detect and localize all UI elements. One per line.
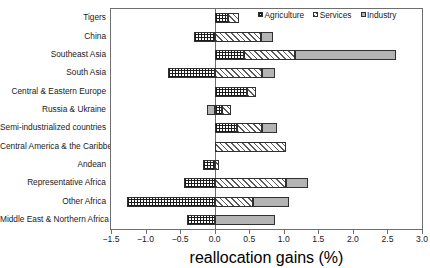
bar-segment-services: [247, 87, 256, 97]
y-axis-label: Central America & the Caribbean: [0, 141, 106, 151]
bar-segment-services: [215, 32, 261, 42]
y-axis-label: Representative Africa: [0, 177, 106, 187]
bar-segment-agriculture: [215, 105, 223, 115]
x-tick-label: 0.0: [209, 234, 221, 244]
chart-bar-row: [111, 68, 422, 78]
x-tick-label: 2.0: [347, 234, 359, 244]
bar-segment-industry: [215, 215, 276, 225]
bar-segment-agriculture: [215, 13, 228, 23]
bar-segment-agriculture: [215, 123, 238, 133]
bar-segment-services: [237, 123, 261, 133]
y-axis-label: Russia & Ukraine: [0, 104, 106, 114]
legend-item-agriculture: Agriculture: [258, 10, 304, 20]
legend-item-services: Services: [313, 10, 351, 20]
bar-segment-agriculture: [187, 215, 215, 225]
bar-segment-services: [215, 160, 219, 170]
bar-segment-industry: [262, 68, 275, 78]
legend-label: Agriculture: [265, 10, 305, 20]
chart-bar-row: [111, 215, 422, 225]
x-tick-label: 1.5: [312, 234, 324, 244]
bar-segment-services: [215, 142, 286, 152]
chart-bar-row: [111, 197, 422, 207]
bar-segment-agriculture: [168, 68, 215, 78]
stacked-bar-series-group: [111, 9, 422, 229]
bar-segment-services: [215, 68, 262, 78]
bar-segment-agriculture: [215, 87, 247, 97]
bar-segment-agriculture: [215, 50, 245, 60]
bar-segment-industry: [207, 105, 215, 115]
bar-segment-industry: [262, 123, 277, 133]
chart-figure: TigersChinaSoutheast AsiaSouth AsiaCentr…: [0, 0, 430, 268]
y-axis-label: Andean: [0, 159, 106, 169]
bar-segment-agriculture: [194, 32, 215, 42]
y-axis-label: South Asia: [0, 67, 106, 77]
y-axis-category-labels: TigersChinaSoutheast AsiaSouth AsiaCentr…: [0, 8, 106, 230]
x-tick-label: 1.0: [278, 234, 290, 244]
x-tick-label: 0.5: [243, 234, 255, 244]
x-tick-label: −1.5: [103, 234, 120, 244]
bar-segment-industry: [261, 32, 273, 42]
chart-legend: AgricultureServicesIndustry: [258, 9, 397, 20]
chart-bar-row: [111, 123, 422, 133]
bar-segment-industry: [295, 50, 396, 60]
legend-label: Services: [320, 10, 352, 20]
bar-segment-services: [222, 105, 231, 115]
bar-segment-industry: [253, 197, 288, 207]
x-axis-title-wrap: reallocation gains (%): [110, 249, 423, 267]
x-tick-label: 2.5: [381, 234, 393, 244]
chart-bar-row: [111, 105, 422, 115]
chart-bar-row: [111, 32, 422, 42]
y-axis-label: Middle East & Northern Africa: [0, 214, 106, 224]
x-axis-title: reallocation gains (%): [190, 249, 344, 266]
bar-segment-industry: [286, 178, 308, 188]
bar-segment-agriculture: [203, 160, 215, 170]
bar-segment-services: [244, 50, 294, 60]
y-axis-label: Central & Eastern Europe: [0, 86, 106, 96]
x-tick-label: −0.5: [172, 234, 189, 244]
chart-bar-row: [111, 160, 422, 170]
y-axis-label: Semi-industrialized countries: [0, 122, 106, 132]
legend-swatch-industry-icon: [361, 12, 366, 17]
legend-swatch-agriculture-icon: [258, 12, 263, 17]
x-tick-label: 3.0: [416, 234, 428, 244]
chart-bar-row: [111, 87, 422, 97]
y-axis-label: China: [0, 31, 106, 41]
y-axis-label: Tigers: [0, 12, 106, 22]
chart-bar-row: [111, 178, 422, 188]
legend-item-industry: Industry: [361, 10, 397, 20]
bar-segment-agriculture: [184, 178, 214, 188]
legend-label: Industry: [367, 10, 397, 20]
y-axis-label: Other Africa: [0, 196, 106, 206]
y-axis-label: Southeast Asia: [0, 49, 106, 59]
bar-segment-services: [215, 178, 286, 188]
x-tick-label: −1.0: [137, 234, 154, 244]
bar-segment-services: [215, 197, 254, 207]
bar-segment-services: [228, 13, 239, 23]
bar-segment-agriculture: [127, 197, 215, 207]
chart-bar-row: [111, 50, 422, 60]
legend-swatch-services-icon: [313, 12, 318, 17]
chart-bar-row: [111, 142, 422, 152]
x-axis-ticks: −1.5−1.0−0.50.00.51.01.52.02.53.0: [110, 230, 423, 236]
